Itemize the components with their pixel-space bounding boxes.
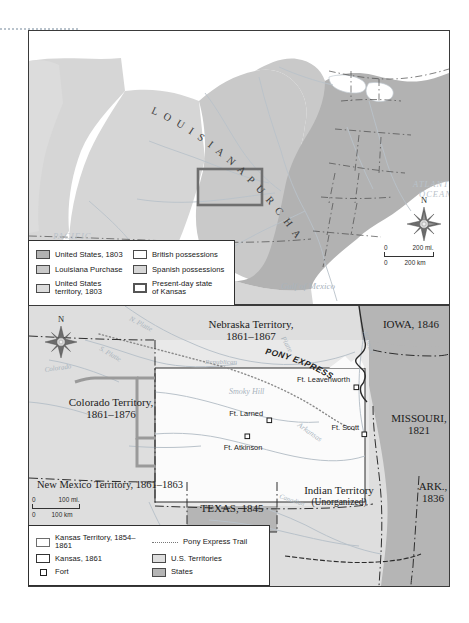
label-river-smoky-hill: Smoky Hill [229,387,265,396]
scale-bottom-bar-miles [32,504,80,509]
legend-item-states: States [152,568,267,577]
legend-label-spanish: Spanish possessions [152,266,224,274]
label-new-mexico-territory: New Mexico Territory, 1861–1863 [37,479,183,490]
map-plate: L O U I S I A N A P U R C H A S E PACIFI… [0,0,469,623]
scale-top-bar-miles [384,252,434,257]
compass-north-label-top: N [404,196,444,205]
label-nebraska-territory: Nebraska Territory, [208,318,293,330]
swatch-louisiana-purchase-icon [36,265,50,274]
scale-bottom-miles-value: 100 mi. [59,496,80,503]
legend-label-states: States [171,568,193,576]
legend-item-louisiana-purchase: Louisiana Purchase [36,265,133,274]
legend-item-pony-express-trail: Pony Express Trail [152,534,267,550]
fort-marker-scott [362,432,367,437]
scale-top-miles-zero: 0 [384,244,388,251]
legend-item-kansas-1861: Kansas, 1861 [36,554,152,563]
legend-item-us-territories: U.S. Territories [152,554,267,563]
legend-louisiana-purchase: United States, 1803 British possessions … [28,240,235,306]
swatch-us-1803-icon [36,250,50,259]
compass-rose-bottom-glyph [42,324,80,360]
scale-bottom-km-zero: 0 [32,511,36,518]
label-iowa: IOWA, 1846 [383,318,440,330]
swatch-states-icon [152,568,166,577]
scale-bar-bottom: 0 100 mi. 0 100 km [32,495,80,519]
fort-marker-icon [36,569,50,576]
legend-label-us-territory: United States territory, 1803 [55,280,102,296]
label-missouri: MISSOURI, [391,412,447,424]
scale-top-km-zero: 0 [384,259,388,266]
label-missouri-date: 1821 [408,424,430,436]
compass-rose-top: N [404,196,444,244]
legend-label-british: British possessions [152,251,218,259]
legend-item-british-possessions: British possessions [133,250,234,259]
legend-label-fort: Fort [55,568,69,576]
label-indian-territory-status: (Unorganized) [311,497,366,508]
legend-label-present-day-kansas: Present-day state of Kansas [152,280,212,296]
legend-item-fort: Fort [36,568,152,577]
label-river-republican: Republican [204,358,237,366]
legend-item-spanish-possessions: Spanish possessions [133,265,234,274]
fort-marker-atkinson [245,434,250,439]
legend-label-louisiana-purchase: Louisiana Purchase [55,266,123,274]
label-ft-larned: Ft. Larned [229,409,263,418]
label-colorado-territory-dates: 1861–1876 [86,408,136,420]
compass-north-label-bottom: N [42,315,80,324]
pony-express-line-icon [152,542,178,543]
swatch-british-icon [133,250,147,259]
scale-top-km-value: 200 km [405,259,426,266]
label-colorado-territory: Colorado Territory, [69,396,154,408]
swatch-kansas-1861-icon [36,554,50,563]
label-ft-scott: Ft. Scott [331,423,359,432]
legend-label-us-1803: United States, 1803 [55,251,123,259]
legend-label-pony-express: Pony Express Trail [183,538,247,546]
label-arkansas-date: 1836 [422,492,445,504]
swatch-present-day-kansas-icon [133,283,147,293]
legend-item-us-1803: United States, 1803 [36,250,133,259]
scale-bottom-km-value: 100 km [52,511,73,518]
compass-rose-top-glyph [404,205,444,243]
label-texas: TEXAS, 1845 [201,502,264,514]
label-arkansas: ARK., [419,480,448,492]
label-nebraska-territory-dates: 1861–1867 [226,330,276,342]
legend-item-us-territory-1803: United States territory, 1803 [36,280,133,296]
swatch-spanish-icon [133,265,147,274]
legend-label-kansas-1861: Kansas, 1861 [55,555,102,563]
scale-bar-top: 0 200 mi. 0 200 km [384,243,434,267]
gulf-of-mexico-label: Gulf of Mexico [281,281,335,291]
atlantic-ocean-label-line1: ATLANTIC [412,179,449,189]
scale-bottom-miles-zero: 0 [32,496,36,503]
legend-item-kansas-territory: Kansas Territory, 1854–1861 [36,534,152,550]
legend-label-kansas-territory: Kansas Territory, 1854–1861 [55,534,152,550]
fort-marker-leavenworth [354,385,359,390]
legend-item-present-day-kansas: Present-day state of Kansas [133,280,234,296]
legend-kansas-territory: Kansas Territory, 1854–1861 Pony Express… [28,525,270,586]
fort-marker-larned [267,418,272,423]
compass-rose-bottom: N [42,315,80,361]
label-indian-territory: Indian Territory [304,484,374,496]
legend-label-us-territories: U.S. Territories [171,555,222,563]
label-ft-atkinson: Ft. Atkinson [224,443,263,452]
scale-top-miles-value: 200 mi. [413,244,434,251]
swatch-us-territories-icon [152,554,166,563]
swatch-kansas-territory-icon [36,538,50,547]
swatch-us-territory-icon [36,284,50,293]
